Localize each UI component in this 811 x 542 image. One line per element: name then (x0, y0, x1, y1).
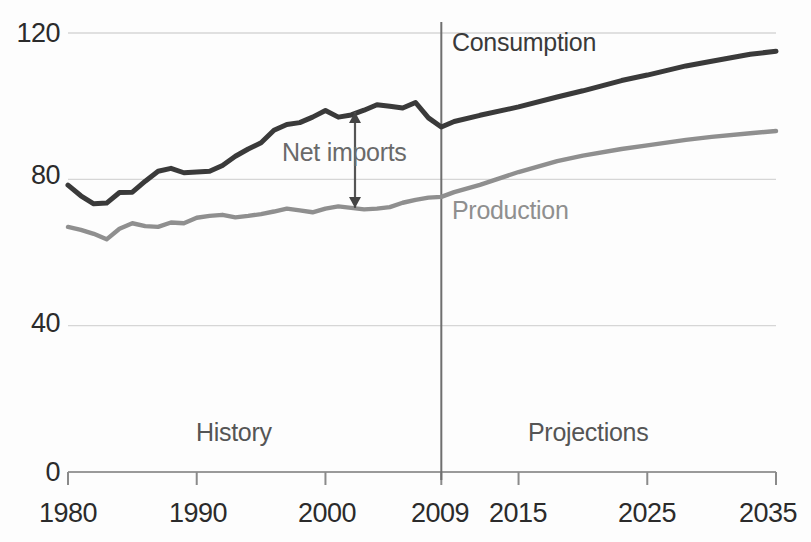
series-line-consumption (68, 51, 776, 204)
region-label-projections: Projections (528, 418, 648, 447)
chart-plot-area (0, 0, 811, 542)
series-label-production: Production (452, 196, 569, 225)
x-axis-tick-1990: 1990 (148, 498, 248, 529)
series-line-production (68, 131, 776, 239)
chart-container: 120 80 40 0 1980 1990 2000 2009 2015 202… (0, 0, 811, 542)
y-axis-tick-80: 80 (0, 160, 60, 191)
region-label-history: History (196, 418, 272, 447)
y-axis-tick-0: 0 (0, 457, 60, 488)
annotation-net-imports: Net imports (282, 138, 407, 167)
y-axis-tick-120: 120 (0, 18, 60, 49)
x-axis-tick-2000: 2000 (277, 498, 377, 529)
x-axis-tick-1980: 1980 (18, 498, 118, 529)
x-axis-tick-2025: 2025 (597, 498, 697, 529)
x-axis-tick-2015: 2015 (468, 498, 568, 529)
y-axis-tick-40: 40 (0, 308, 60, 339)
x-axis-tick-2035: 2035 (718, 498, 811, 529)
series-label-consumption: Consumption (452, 28, 596, 57)
